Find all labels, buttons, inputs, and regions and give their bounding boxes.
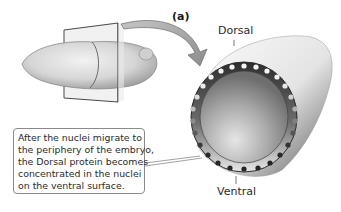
callout-line: After the nuclei migrate to	[18, 132, 140, 144]
callout-box: After the nuclei migrate to the peripher…	[13, 128, 145, 194]
callout-line: concentrated in the nuclei	[18, 168, 140, 180]
panel-label: (a)	[172, 10, 189, 23]
callout-line: the periphery of the embryo,	[18, 144, 140, 156]
embryo-body	[22, 42, 157, 89]
embryo-cross-section	[190, 62, 297, 172]
cytoplasm	[200, 71, 288, 163]
whole-embryo	[22, 23, 157, 102]
ventral-label: Ventral	[217, 185, 256, 198]
callout-leader	[145, 156, 202, 166]
embryo-pole	[139, 48, 153, 60]
callout-line: the Dorsal protein becomes	[18, 156, 140, 168]
dorsal-label: Dorsal	[218, 24, 253, 37]
section-plane-front	[118, 23, 124, 102]
callout-line: on the ventral surface.	[18, 180, 140, 192]
